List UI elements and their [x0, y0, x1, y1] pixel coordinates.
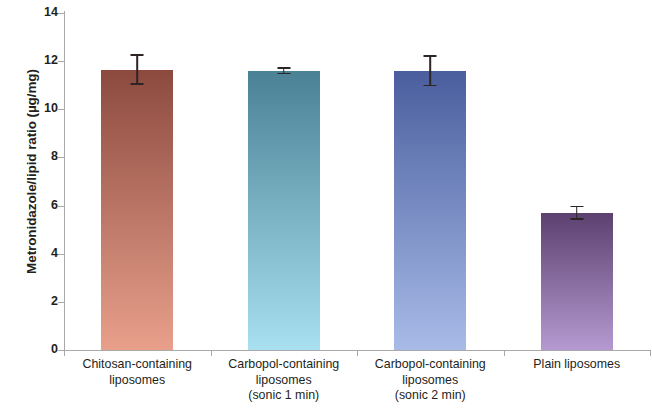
bar: [394, 71, 466, 350]
error-bar: [277, 67, 291, 74]
x-category-label-line: (sonic 1 min): [211, 388, 358, 404]
error-bar-cap-top: [424, 55, 437, 57]
x-tick-mark: [211, 350, 212, 356]
y-tick-label: 14: [32, 6, 58, 19]
error-bar-cap-top: [277, 67, 290, 69]
y-tick-label: 2: [32, 295, 58, 308]
x-category-label-line: Carbopol-containing: [211, 357, 358, 373]
bar-chart: Metronidazole/lipid ratio (µg/mg) 024681…: [0, 0, 652, 417]
y-tick-label: 0: [32, 343, 58, 356]
bar-fill: [394, 71, 466, 350]
error-bar-stem: [430, 55, 432, 86]
x-axis-line: [58, 350, 650, 351]
error-bar: [130, 54, 144, 85]
x-category-label-line: Chitosan-containing: [64, 357, 211, 373]
error-bar-stem: [137, 54, 139, 85]
bar-fill: [541, 213, 613, 350]
error-bar-cap-bottom: [570, 218, 583, 220]
y-tick-label-wrap: 10: [20, 109, 58, 110]
error-bar-cap-top: [131, 54, 144, 56]
x-category-label-line: liposomes: [211, 373, 358, 389]
bar-fill: [101, 70, 173, 350]
bar: [541, 213, 613, 350]
y-tick-label: 4: [32, 247, 58, 260]
x-tick-mark: [650, 350, 651, 356]
x-category-label-line: Plain liposomes: [504, 357, 651, 373]
y-tick-label-wrap: 8: [20, 157, 58, 158]
x-category-label-line: Carbopol-containing: [357, 357, 504, 373]
y-tick-label-wrap: 12: [20, 61, 58, 62]
error-bar-cap-top: [570, 206, 583, 208]
error-bar-cap-bottom: [131, 83, 144, 85]
bar: [101, 70, 173, 350]
error-bar-cap-bottom: [424, 85, 437, 87]
y-tick-label-wrap: 2: [20, 302, 58, 303]
bar: [248, 71, 320, 350]
y-tick-label: 12: [32, 54, 58, 67]
x-category-label-line: liposomes: [357, 373, 504, 389]
y-tick-label: 8: [32, 150, 58, 163]
y-tick-label-wrap: 4: [20, 254, 58, 255]
x-category-label: Carbopol-containingliposomes(sonic 1 min…: [211, 357, 358, 404]
plot-area: [64, 13, 650, 350]
y-tick-label: 6: [32, 199, 58, 212]
bar-fill: [248, 71, 320, 350]
x-category-label-line: liposomes: [64, 373, 211, 389]
x-tick-mark: [357, 350, 358, 356]
x-tick-mark: [64, 350, 65, 356]
x-category-label: Carbopol-containingliposomes(sonic 2 min…: [357, 357, 504, 404]
error-bar: [423, 55, 437, 86]
x-category-label: Plain liposomes: [504, 357, 651, 373]
error-bar: [570, 206, 584, 220]
y-tick-label-wrap: 0: [20, 350, 58, 351]
x-category-label-line: (sonic 2 min): [357, 388, 504, 404]
error-bar-cap-bottom: [277, 73, 290, 75]
y-tick-label: 10: [32, 102, 58, 115]
y-tick-label-wrap: 6: [20, 206, 58, 207]
x-tick-mark: [504, 350, 505, 356]
x-category-label: Chitosan-containingliposomes: [64, 357, 211, 388]
y-tick-label-wrap: 14: [20, 13, 58, 14]
